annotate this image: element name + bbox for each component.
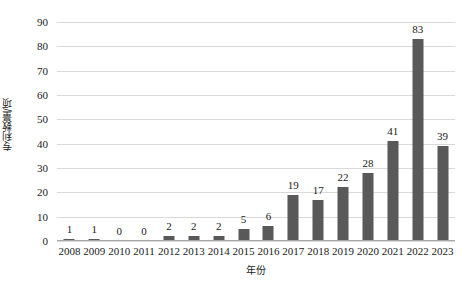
bar-value-label: 83 [412,24,423,35]
x-axis-tick-label: 2016 [257,246,279,257]
bar-value-label: 28 [362,158,373,169]
x-axis-tick-label: 2011 [133,246,155,257]
y-axis-tick-label: 70 [37,65,48,76]
bar-value-label: 2 [216,221,222,232]
bar-group: 28 [356,22,381,241]
bar-group: 1 [57,22,82,241]
bar-value-label: 2 [166,221,172,232]
x-axis-title: 年份 [57,266,455,276]
y-axis-tick-label: 10 [37,211,48,222]
bar[interactable] [362,173,373,241]
bar-value-label: 17 [313,185,324,196]
bar-value-label: 1 [92,224,98,235]
x-axis-tick-label: 2021 [382,246,404,257]
bar-value-label: 1 [67,224,73,235]
y-axis-tick-label: 40 [37,138,48,149]
bar-group: 41 [380,22,405,241]
y-axis-tick-label: 20 [37,187,48,198]
x-axis-line [57,240,455,241]
plot-area: 11002225619172228418339 [57,22,455,241]
y-axis-tick-label: 0 [43,236,49,247]
bar-group: 83 [405,22,430,241]
y-axis-tick-label: 60 [37,90,48,101]
x-axis-tick-label: 2018 [307,246,329,257]
x-axis-tick-label: 2014 [208,246,230,257]
x-axis-tick-label: 2017 [282,246,304,257]
bar-group: 39 [430,22,455,241]
x-axis-tick-labels: 2008200920102011201220132014201520162017… [57,246,455,262]
bar[interactable] [288,195,299,241]
bar-group: 6 [256,22,281,241]
bar-value-label: 2 [191,221,197,232]
bar-group: 2 [157,22,182,241]
x-axis-tick-label: 2013 [183,246,205,257]
bar-group: 19 [281,22,306,241]
bar[interactable] [387,141,398,241]
x-axis-tick-label: 2023 [432,246,454,257]
x-axis-tick-label: 2015 [233,246,255,257]
bar-group: 0 [132,22,157,241]
bar-value-label: 0 [141,226,147,237]
bar-group: 2 [206,22,231,241]
bar-value-label: 0 [116,226,122,237]
y-axis-title: 专利数量/项 [0,0,16,250]
x-axis-tick-label: 2009 [83,246,105,257]
bars-layer: 11002225619172228418339 [57,22,455,241]
bar[interactable] [412,39,423,241]
bar[interactable] [338,187,349,241]
y-axis-title-label: 专利数量/项 [3,98,13,151]
bar-group: 5 [231,22,256,241]
x-axis-tick-label: 2012 [158,246,180,257]
bar-group: 1 [82,22,107,241]
bar-group: 17 [306,22,331,241]
bar-value-label: 5 [241,214,247,225]
bar-value-label: 22 [338,172,349,183]
y-axis-tick-labels: 0102030405060708090 [18,0,52,289]
bar-value-label: 19 [288,180,299,191]
bar-group: 0 [107,22,132,241]
gridline [57,241,455,242]
bar-group: 22 [331,22,356,241]
bar-value-label: 6 [266,211,272,222]
bar-value-label: 41 [387,126,398,137]
x-axis-tick-label: 2020 [357,246,379,257]
bar-value-label: 39 [437,131,448,142]
x-axis-tick-label: 2008 [58,246,80,257]
bar[interactable] [313,200,324,241]
x-axis-tick-label: 2022 [407,246,429,257]
x-axis-tick-label: 2019 [332,246,354,257]
y-axis-tick-label: 80 [37,41,48,52]
x-axis-tick-label: 2010 [108,246,130,257]
y-axis-tick-label: 30 [37,163,48,174]
bar[interactable] [437,146,448,241]
bar[interactable] [263,226,274,241]
patent-count-bar-chart: 专利数量/项 0102030405060708090 1100222561917… [0,0,467,289]
bar-group: 2 [181,22,206,241]
y-axis-tick-label: 90 [37,17,48,28]
y-axis-tick-label: 50 [37,114,48,125]
